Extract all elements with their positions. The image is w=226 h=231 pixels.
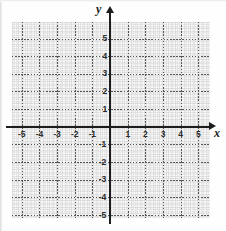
page-edge-left <box>0 0 3 231</box>
page-edge-top <box>0 0 226 2</box>
x-tick-label-5: 5 <box>191 130 205 139</box>
y-tick-label--4: -4 <box>90 193 106 202</box>
major-gridline-vertical <box>163 22 164 218</box>
major-gridline-vertical <box>198 22 199 218</box>
x-tick-label--3: -3 <box>50 130 64 139</box>
major-gridline-vertical <box>39 22 40 218</box>
x-tick-label--2: -2 <box>68 130 82 139</box>
major-gridline-vertical <box>145 22 146 218</box>
y-tick-label--2: -2 <box>90 158 106 167</box>
major-gridline-vertical <box>22 22 23 218</box>
major-gridline-vertical <box>75 22 76 218</box>
y-axis-label: y <box>96 3 101 15</box>
y-tick-label-4: 4 <box>91 52 107 61</box>
x-tick-label--1: -1 <box>85 130 99 139</box>
y-axis-line <box>109 12 111 224</box>
major-gridline-horizontal <box>12 215 210 216</box>
grid-area <box>12 22 210 218</box>
y-tick-label-3: 3 <box>91 69 107 78</box>
major-gridline-horizontal <box>12 197 210 198</box>
x-tick-label-4: 4 <box>174 130 188 139</box>
y-tick-label--5: -5 <box>90 211 106 220</box>
x-tick-label-3: 3 <box>156 130 170 139</box>
x-tick-label-2: 2 <box>138 130 152 139</box>
y-tick-label-2: 2 <box>91 87 107 96</box>
major-gridline-vertical <box>181 22 182 218</box>
y-tick-label-5: 5 <box>91 34 107 43</box>
y-axis-arrowhead-icon <box>106 6 114 13</box>
coordinate-plane-figure: y x -5-4-3-2-11234554321-1-2-3-4-5 <box>0 0 226 231</box>
x-tick-label--4: -4 <box>32 130 46 139</box>
x-tick-label--5: -5 <box>15 130 29 139</box>
y-tick-label--3: -3 <box>90 175 106 184</box>
y-tick-label-1: 1 <box>91 105 107 114</box>
major-gridline-vertical <box>57 22 58 218</box>
y-tick-label--1: -1 <box>90 140 106 149</box>
major-gridline-vertical <box>128 22 129 218</box>
x-tick-label-1: 1 <box>121 130 135 139</box>
x-axis-label: x <box>214 127 220 139</box>
